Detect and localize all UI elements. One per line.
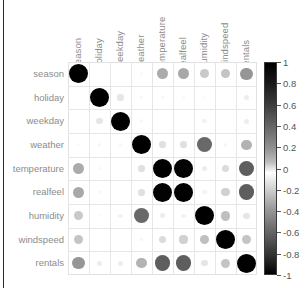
correlation-cell-weather-humidity [194, 133, 215, 157]
correlation-dot [201, 260, 207, 266]
correlation-cell-weekday-windspeed [215, 109, 236, 133]
correlation-cell-realfeel-rentals [236, 180, 257, 204]
correlation-dot [174, 183, 193, 202]
correlation-cell-weekday-weather [131, 109, 152, 133]
correlation-dot [202, 190, 206, 194]
correlation-dot [99, 239, 101, 241]
correlation-cell-season-realfeel [173, 62, 194, 86]
colorbar-tick [277, 126, 281, 127]
correlation-cell-weather-weekday [110, 133, 131, 157]
correlation-cell-temperature-temperature [152, 157, 173, 181]
correlation-dot [72, 257, 84, 269]
correlation-cell-realfeel-temperature [152, 180, 173, 204]
correlation-cell-humidity-humidity [194, 204, 215, 228]
correlation-dot [161, 96, 164, 99]
correlation-cell-temperature-holiday [89, 157, 110, 181]
colorbar-tick [277, 211, 281, 212]
correlation-cell-humidity-temperature [152, 204, 173, 228]
colorbar-tick [277, 105, 281, 106]
correlation-dot [73, 163, 84, 174]
correlation-dot [98, 167, 101, 170]
correlation-cell-holiday-rentals [236, 86, 257, 110]
correlation-dot [138, 189, 145, 196]
correlation-cell-realfeel-realfeel [173, 180, 194, 204]
row-axis-labels: seasonholidayweekdayweathertemperaturere… [0, 62, 64, 275]
correlation-dot [153, 183, 172, 202]
correlation-dot [159, 141, 166, 148]
correlation-cell-holiday-weather [131, 86, 152, 110]
correlation-cell-realfeel-season [68, 180, 89, 204]
correlation-cell-weekday-rentals [236, 109, 257, 133]
correlation-matrix-figure: seasonholidayweekdayweathertemperaturere… [0, 0, 308, 288]
correlation-cell-temperature-humidity [194, 157, 215, 181]
correlation-dot [221, 188, 229, 196]
correlation-cell-weekday-temperature [152, 109, 173, 133]
correlation-dot [224, 143, 228, 147]
correlation-cell-weekday-weekday [110, 109, 131, 133]
colorbar-tick-label: -0.2 [283, 184, 299, 195]
row-label-rentals: rentals [35, 257, 64, 268]
correlation-cell-holiday-humidity [194, 86, 215, 110]
colorbar-gradient [264, 62, 277, 275]
correlation-dot [140, 72, 143, 75]
correlation-cell-windspeed-season [68, 228, 89, 252]
correlation-cell-rentals-humidity [194, 251, 215, 275]
correlation-dot [98, 143, 101, 146]
correlation-cell-temperature-windspeed [215, 157, 236, 181]
correlation-cell-season-windspeed [215, 62, 236, 86]
correlation-dot [221, 69, 230, 78]
correlation-dot [90, 88, 109, 107]
correlation-cell-holiday-weekday [110, 86, 131, 110]
correlation-dot [160, 213, 165, 218]
correlation-dot [140, 119, 143, 122]
colorbar-tick-label: 0.8 [283, 78, 296, 89]
correlation-dot [118, 214, 122, 218]
row-label-humidity: humidity [29, 210, 64, 221]
correlation-cell-windspeed-weather [131, 228, 152, 252]
correlation-dot [244, 95, 249, 100]
correlation-cell-realfeel-windspeed [215, 180, 236, 204]
correlation-dot [74, 235, 83, 244]
correlation-cell-season-weather [131, 62, 152, 86]
correlation-cell-humidity-realfeel [173, 204, 194, 228]
correlation-dot [155, 255, 170, 270]
correlation-cell-holiday-realfeel [173, 86, 194, 110]
correlation-cell-windspeed-rentals [236, 228, 257, 252]
colorbar-tick [277, 83, 281, 84]
correlation-cell-season-humidity [194, 62, 215, 86]
correlation-cell-rentals-rentals [236, 251, 257, 275]
correlation-cell-weather-realfeel [173, 133, 194, 157]
row-label-windspeed: windspeed [19, 234, 64, 245]
correlation-cell-rentals-weekday [110, 251, 131, 275]
row-label-weather: weather [30, 139, 64, 150]
correlation-cell-holiday-temperature [152, 86, 173, 110]
correlation-cell-temperature-weekday [110, 157, 131, 181]
correlation-cell-temperature-season [68, 157, 89, 181]
correlation-dot [117, 94, 123, 100]
row-label-weekday: weekday [27, 115, 65, 126]
correlation-dot [183, 120, 185, 122]
correlation-cell-temperature-weather [131, 157, 152, 181]
correlation-dot [203, 96, 206, 99]
colorbar-tick [277, 275, 281, 276]
correlation-dot [159, 236, 166, 243]
correlation-dot [118, 261, 123, 266]
correlation-dot [132, 135, 151, 154]
correlation-cell-holiday-season [68, 86, 89, 110]
correlation-dot [111, 112, 130, 131]
row-label-realfeel: realfeel [33, 186, 64, 197]
correlation-cell-rentals-windspeed [215, 251, 236, 275]
correlation-cell-holiday-holiday [89, 86, 110, 110]
correlation-dot [216, 230, 235, 249]
correlation-cell-realfeel-humidity [194, 180, 215, 204]
correlation-dot [243, 213, 249, 219]
correlation-cell-holiday-windspeed [215, 86, 236, 110]
correlation-cell-realfeel-holiday [89, 180, 110, 204]
correlation-dot [119, 143, 122, 146]
correlation-cell-weekday-realfeel [173, 109, 194, 133]
correlation-dot [73, 187, 84, 198]
correlation-dot [120, 191, 122, 193]
correlation-cell-realfeel-weather [131, 180, 152, 204]
correlation-dot [120, 239, 122, 241]
colorbar-tick-label: 0.4 [283, 120, 296, 131]
